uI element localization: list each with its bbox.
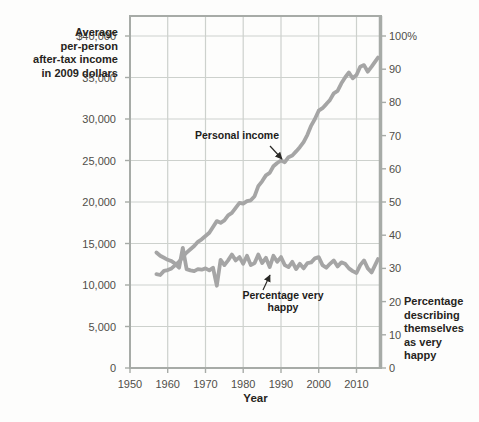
left-tick-label: 5,000: [88, 321, 116, 333]
right-tick-label: 80: [389, 96, 401, 108]
right-tick-label: 90: [389, 63, 401, 75]
series-personal-income: [156, 58, 378, 275]
money-happiness-figure: $40,00035,00030,00025,00020,00015,00010,…: [0, 0, 479, 422]
x-tick-label: 2010: [344, 378, 368, 390]
right-tick-label: 0: [389, 362, 395, 374]
right-tick-label: 20: [389, 296, 401, 308]
right-tick-label: 100%: [389, 30, 417, 42]
left-tick-label: 10,000: [82, 279, 116, 291]
left-tick-label: 30,000: [82, 113, 116, 125]
right-tick-label: 40: [389, 229, 401, 241]
x-tick-label: 2000: [306, 378, 330, 390]
left-tick-label: 0: [110, 362, 116, 374]
left-axis-title: Average per-person after-tax income in 2…: [6, 26, 118, 80]
right-tick-label: 10: [389, 329, 401, 341]
x-tick-label: 1980: [231, 378, 255, 390]
right-axis-title: Percentage describing themselves as very…: [404, 295, 476, 363]
x-tick-label: 1970: [193, 378, 217, 390]
x-tick-label: 1960: [155, 378, 179, 390]
personal-income-arrow: [270, 146, 282, 159]
annotation-percentage-very-happy: Percentage very happy: [226, 289, 340, 313]
right-tick-label: 70: [389, 130, 401, 142]
right-tick-label: 50: [389, 196, 401, 208]
right-tick-label: 60: [389, 163, 401, 175]
x-axis-title: Year: [130, 392, 381, 404]
left-tick-label: 15,000: [82, 238, 116, 250]
right-tick-label: 30: [389, 262, 401, 274]
left-tick-label: 20,000: [82, 196, 116, 208]
x-tick-label: 1990: [269, 378, 293, 390]
percentage-very-happy-arrow: [263, 275, 270, 290]
left-tick-label: 25,000: [82, 155, 116, 167]
x-tick-label: 1950: [118, 378, 142, 390]
annotation-personal-income: Personal income: [180, 129, 294, 141]
